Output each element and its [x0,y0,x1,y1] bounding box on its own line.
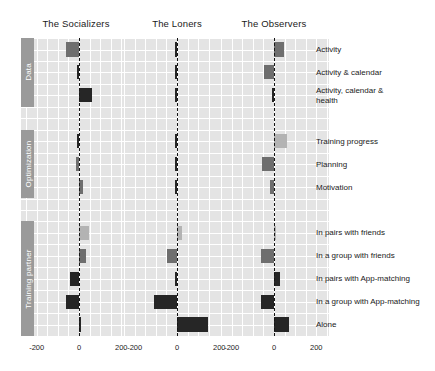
bar-2-8 [167,249,177,263]
section-strip-label: Data [23,64,32,82]
row-label-10: In a group with App-matching [316,297,434,307]
x-tick-label: 0 [59,343,99,352]
gridline-horizontal [21,38,131,39]
x-tick-label: -200 [17,343,57,352]
bar-1-1 [66,42,79,56]
bar-3-1 [274,42,284,56]
gridline-horizontal [21,141,131,142]
gridline-horizontal [21,187,131,188]
bar-3-10 [261,295,274,309]
gridline-horizontal [21,256,131,257]
gridline-horizontal [21,61,131,62]
gridline-horizontal [21,107,131,108]
zero-line [79,38,80,336]
plot-panel-1 [21,38,131,336]
gridline-horizontal [21,130,131,131]
bar-3-5 [262,157,274,171]
row-label-4: Training progress [316,137,434,147]
gridline-horizontal [21,210,131,211]
bar-3-8 [261,249,274,263]
row-label-3: Activity, calendar & health [316,86,434,106]
plot-panel-3 [219,38,329,336]
gridline-horizontal [21,199,131,200]
bar-1-7 [79,226,89,240]
bar-1-9 [70,272,80,286]
gridline-horizontal [21,84,131,85]
zero-line [274,38,275,336]
x-tick-label: 0 [254,343,294,352]
row-label-1: Activity [316,45,434,55]
gridline-horizontal [21,290,131,291]
gridline-horizontal [21,95,131,96]
x-tick-label: 200 [296,343,336,352]
section-strip-label: Optimization [23,141,32,188]
gridline-horizontal [21,325,131,326]
bar-3-11 [274,317,289,331]
gridline-horizontal [21,118,131,119]
bar-1-3 [79,88,92,102]
gridline-horizontal [21,313,131,314]
bar-2-10 [154,295,177,309]
bar-1-10 [66,295,79,309]
panel-title-3: The Observers [204,18,344,29]
gridline-horizontal [21,267,131,268]
gridline-horizontal [21,72,131,73]
zero-line [177,38,178,336]
bar-3-4 [274,134,287,148]
row-label-8: In a group with friends [316,251,434,261]
gridline-horizontal [21,233,131,234]
row-label-11: Alone [316,320,434,330]
chart-figure: The SocializersThe LonersThe Observers-2… [0,0,435,371]
row-label-2: Activity & calendar [316,68,434,78]
section-strip-2: Optimization [21,130,34,199]
gridline-horizontal [21,176,131,177]
gridline-horizontal [21,153,131,154]
gridline-horizontal [21,221,131,222]
row-label-5: Planning [316,160,434,170]
bar-2-11 [177,317,208,331]
x-tick-label: -200 [212,343,252,352]
x-tick-label: -200 [115,343,155,352]
section-strip-3: Training partner [21,221,34,336]
row-label-7: In pairs with friends [316,228,434,238]
section-strip-1: Data [21,38,34,107]
row-label-9: In pairs with App-matching [316,274,434,284]
gridline-horizontal [21,244,131,245]
section-strip-label: Training partner [23,249,32,308]
bar-3-2 [264,65,274,79]
bar-1-8 [79,249,86,263]
x-tick-label: 0 [157,343,197,352]
plot-panel-2 [122,38,232,336]
row-label-6: Motivation [316,183,434,193]
